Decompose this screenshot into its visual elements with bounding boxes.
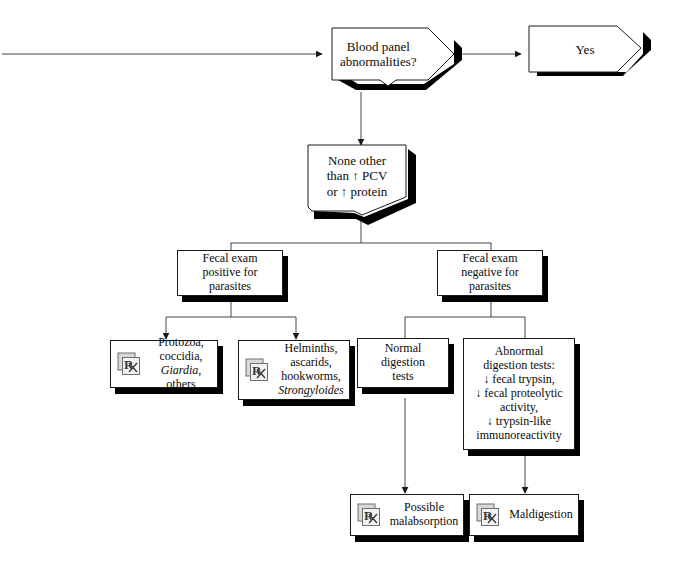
node-fecal-positive-label: Fecal exam positive for parasites <box>200 252 261 294</box>
svg-text:R: R <box>252 363 262 378</box>
node-protozoa-label: Protozoa, coccidia,Giardia, others <box>145 336 217 392</box>
node-blood-panel-label: Blood panel abnormalities? <box>328 20 428 88</box>
rx-icon: R <box>357 503 381 527</box>
rx-icon: R <box>117 352 141 376</box>
node-fecal-negative-label: Fecal exam negative for parasites <box>458 252 522 294</box>
node-yes-label: Yes <box>527 22 659 78</box>
node-fecal-positive[interactable]: Fecal exam positive for parasites <box>177 250 283 296</box>
rx-icon: R <box>476 503 500 527</box>
node-protozoa[interactable]: R Protozoa, coccidia,Giardia, others <box>110 340 218 388</box>
svg-text:R: R <box>364 508 374 523</box>
node-none-other-label: None other than ↑ PCV or ↑ protein <box>306 143 404 209</box>
node-helminths[interactable]: R Helminths, ascarids, hookworms,Strongy… <box>238 340 350 400</box>
node-malabsorption[interactable]: R Possible malabsorption <box>350 494 464 536</box>
node-fecal-negative[interactable]: Fecal exam negative for parasites <box>437 250 543 296</box>
node-abnormal-digestion[interactable]: Abnormal digestion tests: ↓ fecal trypsi… <box>463 338 575 450</box>
svg-text:R: R <box>483 508 493 523</box>
node-maldigestion-label: Maldigestion <box>504 508 578 522</box>
node-helminths-label: Helminths, ascarids, hookworms,Strongylo… <box>273 342 349 398</box>
node-yes[interactable]: Yes <box>527 22 643 78</box>
rx-icon: R <box>245 358 269 382</box>
node-protozoa-label-italic: Giardia <box>161 363 199 377</box>
node-abnormal-digestion-label: Abnormal digestion tests: ↓ fecal trypsi… <box>472 345 565 442</box>
flowchart-canvas: Blood panel abnormalities? Yes None othe… <box>0 0 677 575</box>
svg-text:R: R <box>124 357 134 372</box>
node-malabsorption-label: Possible malabsorption <box>385 501 463 529</box>
node-blood-panel[interactable]: Blood panel abnormalities? <box>328 20 456 88</box>
node-helminths-label-italic: Strongyloides <box>278 383 344 397</box>
node-maldigestion[interactable]: R Maldigestion <box>469 494 579 536</box>
node-none-other[interactable]: None other than ↑ PCV or ↑ protein <box>306 143 416 221</box>
node-normal-digestion[interactable]: Normal digestion tests <box>357 338 449 388</box>
node-normal-digestion-label: Normal digestion tests <box>378 342 428 384</box>
